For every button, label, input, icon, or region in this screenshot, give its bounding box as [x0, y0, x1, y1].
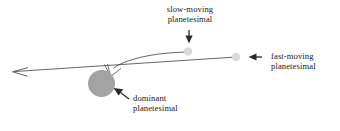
trajectory-arrowhead-icon	[13, 68, 29, 77]
dominant-label-line-1: dominant	[133, 93, 178, 103]
dominant-label-pointer-arrow-icon	[114, 88, 130, 99]
slow-trajectory-curve	[114, 52, 189, 68]
fast-planetesimal-body	[232, 53, 240, 61]
fast-trajectory-line	[15, 57, 236, 72]
slow-moving-planetesimal-label: slow-moving planetesimal	[154, 4, 226, 25]
planetesimal-scattering-diagram: slow-moving planetesimal fast-moving pla…	[0, 0, 340, 131]
fast-moving-planetesimal-label: fast-moving planetesimal	[271, 51, 316, 72]
slow-label-line-2: planetesimal	[154, 14, 226, 24]
fast-label-pointer-arrow-icon	[249, 53, 263, 60]
fast-label-line-2: planetesimal	[271, 61, 316, 71]
slow-planetesimal-body	[184, 47, 192, 55]
fast-label-line-1: fast-moving	[271, 51, 316, 61]
slow-label-pointer-arrow-icon	[185, 30, 192, 44]
dominant-planetesimal-label: dominant planetesimal	[133, 93, 178, 114]
slow-label-line-1: slow-moving	[154, 4, 226, 14]
dominant-label-line-2: planetesimal	[133, 103, 178, 113]
dominant-planetesimal-body	[88, 70, 115, 97]
